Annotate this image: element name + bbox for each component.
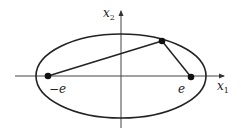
ellipse-foci-diagram: x2 x1 −e e [0,0,241,131]
left-focus-label: −e [49,82,66,96]
x1-axis-label: x1 [217,79,229,95]
x2-axis-label: x2 [103,6,115,22]
right-focus-segment [162,41,191,77]
left-focus-segment [48,41,162,76]
right-focus-label: e [178,82,185,96]
right-focus-dot [188,74,195,81]
left-focus-dot [45,73,52,80]
ellipse-point-dot [159,38,166,45]
